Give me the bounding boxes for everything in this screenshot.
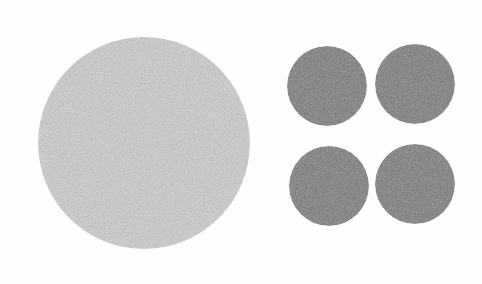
grain-texture-light — [287, 46, 367, 126]
grain-texture-dark — [287, 46, 367, 126]
small-disc-bottom-left — [289, 146, 369, 226]
small-disc-bottom-right — [375, 144, 455, 224]
grain-texture-dark — [289, 146, 369, 226]
grain-texture-light — [289, 146, 369, 226]
large-disc — [38, 37, 250, 249]
small-disc-top-right — [375, 44, 455, 124]
image-canvas — [0, 0, 482, 284]
small-disc-top-left — [287, 46, 367, 126]
grain-texture-light — [38, 37, 250, 249]
grain-texture-dark — [375, 44, 455, 124]
grain-texture-dark — [38, 37, 250, 249]
grain-texture-light — [375, 144, 455, 224]
grain-texture-light — [375, 44, 455, 124]
grain-texture-dark — [375, 144, 455, 224]
